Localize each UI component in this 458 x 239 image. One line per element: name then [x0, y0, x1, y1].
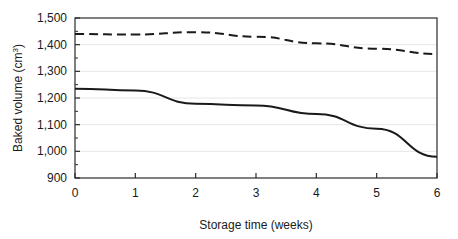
y-tick-label: 1,400	[37, 38, 67, 52]
y-tick-label: 1,000	[37, 144, 67, 158]
line-chart: 9001,0001,1001,2001,3001,4001,500 012345…	[0, 0, 458, 239]
y-axis: 9001,0001,1001,2001,3001,4001,500	[37, 11, 80, 185]
x-tick-label: 1	[132, 186, 139, 200]
x-tick-label: 6	[434, 186, 441, 200]
chart-figure: 9001,0001,1001,2001,3001,4001,500 012345…	[0, 0, 458, 239]
y-tick-label: 1,300	[37, 64, 67, 78]
y-tick-label: 1,100	[37, 118, 67, 132]
x-tick-label: 4	[313, 186, 320, 200]
y-tick-label: 900	[47, 171, 67, 185]
x-tick-label: 3	[253, 186, 260, 200]
x-tick-label: 2	[192, 186, 199, 200]
x-axis-title: Storage time (weeks)	[199, 218, 312, 232]
y-axis-title: Baked volume (cm3)	[11, 44, 25, 152]
y-tick-label: 1,200	[37, 91, 67, 105]
x-tick-label: 5	[373, 186, 380, 200]
y-tick-label: 1,500	[37, 11, 67, 25]
x-tick-label: 0	[72, 186, 79, 200]
